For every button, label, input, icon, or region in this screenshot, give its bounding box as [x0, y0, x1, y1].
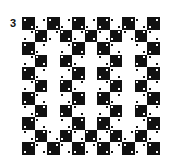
white-square: [97, 80, 110, 93]
white-square: [72, 30, 85, 43]
corner-dot: [61, 94, 63, 96]
corner-dot: [118, 76, 120, 78]
black-square: [147, 117, 160, 130]
corner-dot: [68, 101, 70, 103]
white-square: [72, 80, 85, 93]
white-square: [110, 92, 123, 105]
corner-dot: [68, 106, 70, 108]
black-square: [35, 30, 48, 43]
corner-dot: [24, 69, 26, 71]
blank-cell: [85, 42, 98, 55]
corner-dot: [106, 63, 108, 65]
corner-dot: [68, 38, 70, 40]
corner-dot: [106, 69, 108, 71]
corner-dot: [68, 19, 70, 21]
corner-dot: [118, 113, 120, 115]
corner-dot: [24, 126, 26, 128]
corner-dot: [43, 38, 45, 40]
corner-dot: [131, 131, 133, 133]
corner-dot: [36, 31, 38, 33]
black-square: [147, 92, 160, 105]
corner-dot: [118, 31, 120, 33]
black-square: [110, 130, 123, 143]
black-square: [72, 42, 85, 55]
black-square: [22, 67, 35, 80]
corner-dot: [118, 56, 120, 58]
corner-dot: [36, 51, 38, 53]
corner-dot: [24, 131, 26, 133]
blank-cell: [47, 105, 60, 118]
corner-dot: [24, 19, 26, 21]
corner-dot: [31, 31, 33, 33]
corner-dot: [56, 138, 58, 140]
corner-dot: [136, 101, 138, 103]
corner-dot: [118, 26, 120, 28]
corner-dot: [143, 76, 145, 78]
black-square: [35, 130, 48, 143]
black-square: [110, 105, 123, 118]
corner-dot: [68, 63, 70, 65]
blank-cell: [122, 67, 135, 80]
corner-dot: [149, 31, 151, 33]
corner-dot: [43, 151, 45, 153]
corner-dot: [74, 63, 76, 65]
white-square: [60, 142, 73, 155]
corner-dot: [149, 119, 151, 121]
corner-dot: [106, 38, 108, 40]
corner-dot: [31, 119, 33, 121]
corner-dot: [43, 44, 45, 46]
white-square: [147, 80, 160, 93]
black-square: [110, 30, 123, 43]
corner-dot: [156, 19, 158, 21]
blank-cell: [85, 67, 98, 80]
corner-dot: [74, 151, 76, 153]
corner-dot: [81, 26, 83, 28]
blank-cell: [122, 105, 135, 118]
corner-dot: [74, 19, 76, 21]
black-square: [97, 42, 110, 55]
blank-cell: [122, 55, 135, 68]
corner-dot: [99, 31, 101, 33]
corner-dot: [99, 138, 101, 140]
white-square: [147, 105, 160, 118]
corner-dot: [136, 19, 138, 21]
white-square: [110, 67, 123, 80]
blank-cell: [47, 67, 60, 80]
corner-dot: [31, 94, 33, 96]
white-square: [85, 17, 98, 30]
white-square: [60, 42, 73, 55]
corner-dot: [143, 56, 145, 58]
black-square: [97, 92, 110, 105]
corner-dot: [43, 88, 45, 90]
corner-dot: [136, 106, 138, 108]
black-square: [22, 42, 35, 55]
corner-dot: [143, 26, 145, 28]
corner-dot: [106, 126, 108, 128]
corner-dot: [31, 76, 33, 78]
white-square: [22, 55, 35, 68]
corner-dot: [118, 51, 120, 53]
white-square: [22, 105, 35, 118]
corner-dot: [143, 138, 145, 140]
corner-dot: [106, 131, 108, 133]
corner-dot: [49, 131, 51, 133]
corner-dot: [43, 19, 45, 21]
corner-dot: [118, 138, 120, 140]
corner-dot: [36, 144, 38, 146]
corner-dot: [143, 119, 145, 121]
corner-dot: [136, 151, 138, 153]
corner-dot: [31, 51, 33, 53]
corner-dot: [24, 106, 26, 108]
white-square: [135, 67, 148, 80]
corner-dot: [61, 113, 63, 115]
corner-dot: [24, 101, 26, 103]
corner-dot: [24, 63, 26, 65]
corner-dot: [36, 94, 38, 96]
corner-dot: [106, 106, 108, 108]
black-square: [147, 67, 160, 80]
corner-dot: [136, 44, 138, 46]
corner-dot: [136, 38, 138, 40]
black-square: [147, 17, 160, 30]
corner-dot: [74, 88, 76, 90]
corner-dot: [68, 88, 70, 90]
